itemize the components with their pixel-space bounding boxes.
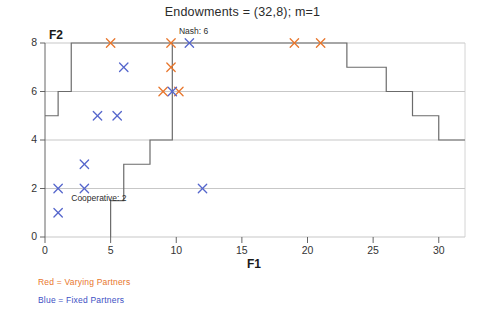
chart-root: Endowments = (32,8); m=1 F2 F1 024680510…	[0, 0, 485, 314]
y-tick-label: 6	[15, 85, 37, 97]
y-tick-label: 2	[15, 182, 37, 194]
y-tick-label: 8	[15, 36, 37, 48]
x-tick-label: 15	[227, 244, 257, 256]
x-tick-label: 0	[30, 244, 60, 256]
legend-entry-varying-partners: Red = Varying Partners	[38, 277, 130, 287]
legend-entry-fixed-partners: Blue = Fixed Partners	[38, 295, 124, 305]
chart-canvas	[0, 0, 485, 314]
x-axis-label: F1	[247, 257, 261, 271]
data-point-fixed-partners	[80, 160, 88, 168]
x-tick-label: 10	[161, 244, 191, 256]
data-point-fixed-partners	[120, 63, 128, 71]
y-axis-label: F2	[49, 28, 63, 42]
y-tick-label: 4	[15, 133, 37, 145]
x-tick-label: 30	[424, 244, 454, 256]
chart-annotation: Cooperative: 2	[71, 193, 126, 203]
x-tick-label: 20	[293, 244, 323, 256]
x-tick-label: 25	[358, 244, 388, 256]
data-point-fixed-partners	[113, 112, 121, 120]
chart-annotation: Nash: 6	[179, 26, 208, 36]
plot-area	[0, 0, 485, 314]
data-point-fixed-partners	[93, 112, 101, 120]
data-point-fixed-partners	[54, 209, 62, 217]
data-point-varying-partners	[167, 63, 175, 71]
x-tick-label: 5	[96, 244, 126, 256]
y-tick-label: 0	[15, 230, 37, 242]
